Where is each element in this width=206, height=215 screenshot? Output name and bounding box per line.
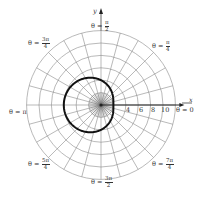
angle-label-pi-4-prefix: θ = <box>152 42 166 50</box>
x-tick-10: 10 <box>161 107 169 114</box>
x-tick-8: 8 <box>151 107 155 114</box>
angle-label-pi-2-prefix: θ = <box>91 22 105 30</box>
angle-label-pi-2-fraction: π2 <box>105 20 110 32</box>
angle-label-pi-2: θ = π2 <box>91 20 109 32</box>
angle-label-5pi-4-fraction: 5π4 <box>42 158 50 170</box>
angle-label-0-value: 0 <box>190 106 194 114</box>
angle-label-3pi-4: θ = 3π4 <box>28 37 50 49</box>
y-axis-arrowhead <box>99 8 103 14</box>
angle-label-0-prefix: θ = <box>176 106 190 114</box>
angle-label-pi: θ = π <box>9 109 27 116</box>
denominator: 4 <box>166 165 174 171</box>
angle-label-5pi-4-prefix: θ = <box>28 160 42 168</box>
angle-label-7pi-4: θ = 7π4 <box>152 158 174 170</box>
pole-point <box>99 103 102 106</box>
angle-label-pi-4: θ = π4 <box>152 40 170 52</box>
denominator: 2 <box>105 183 113 189</box>
x-tick-6: 6 <box>139 107 143 114</box>
denominator: 4 <box>42 165 50 171</box>
angle-label-3pi-2-prefix: θ = <box>91 178 105 186</box>
angle-label-3pi-2-fraction: 3π2 <box>105 176 113 188</box>
denominator: 4 <box>166 47 171 53</box>
angle-label-pi-prefix: θ = <box>9 108 23 116</box>
angle-label-3pi-4-prefix: θ = <box>28 39 42 47</box>
angle-label-0: θ = 0 <box>176 107 194 114</box>
denominator: 2 <box>105 27 110 33</box>
denominator: 4 <box>42 44 50 50</box>
angle-label-7pi-4-prefix: θ = <box>152 160 166 168</box>
axes <box>99 8 192 107</box>
x-axis-label: x <box>189 97 193 104</box>
y-axis-label: y <box>93 8 97 15</box>
angle-label-3pi-4-fraction: 3π4 <box>42 37 50 49</box>
angle-label-5pi-4: θ = 5π4 <box>28 158 50 170</box>
angle-label-pi-4-fraction: π4 <box>166 40 171 52</box>
angle-label-pi-value: π <box>23 108 27 116</box>
angle-label-3pi-2: θ = 3π2 <box>91 176 113 188</box>
x-tick-4: 4 <box>126 107 130 114</box>
angle-label-7pi-4-fraction: 7π4 <box>166 158 174 170</box>
